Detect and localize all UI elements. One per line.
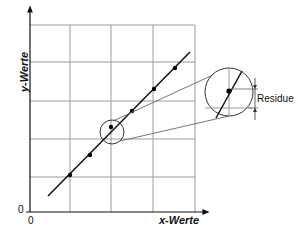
x-axis-label: x-Werte [159,214,199,226]
residue-label: Residue [257,93,294,104]
magnified-view [205,68,258,120]
y-origin-label: 0 [18,204,24,215]
axes [26,7,208,214]
y-axis-label: y-Werte [18,42,30,102]
regression-diagram [0,0,298,234]
grid [30,25,195,212]
x-origin-label: 0 [28,215,34,226]
